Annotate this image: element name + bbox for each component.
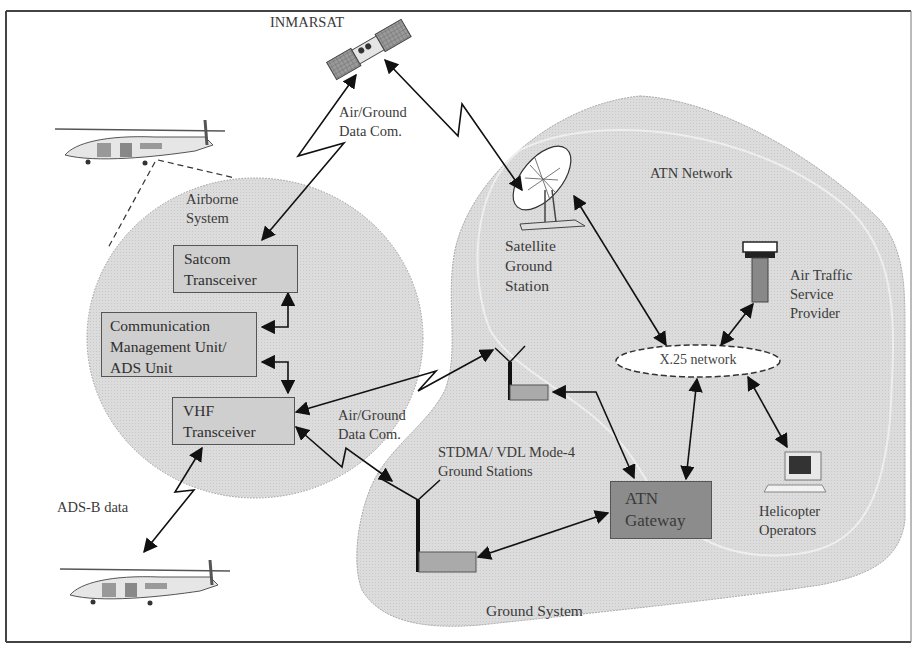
x25-network-label: X.25 network [620, 352, 776, 368]
diagram-canvas: INMARSAT Airborne System ATN Network Gro… [0, 0, 917, 649]
satcom-transceiver-box: Satcom Transceiver [173, 245, 298, 293]
airborne-system-label: Airborne System [186, 190, 238, 228]
ground-system-label: Ground System [486, 601, 583, 620]
satellite-ground-station-label: Satellite Ground Station [505, 236, 556, 296]
vhf-transceiver-box: VHF Transceiver [172, 397, 295, 445]
atn-gateway-box: ATN Gateway [610, 481, 712, 539]
helicopter-icon [55, 120, 225, 166]
helicopter-operators-label: Helicopter Operators [759, 502, 820, 540]
inmarsat-label: INMARSAT [270, 13, 344, 32]
vhf-link-label: Air/Ground Data Com. [338, 406, 406, 444]
atn-network-label: ATN Network [650, 164, 733, 183]
adsb-label: ADS-B data [57, 498, 128, 517]
sat-link-label: Air/Ground Data Com. [339, 103, 407, 141]
helicopter-icon [60, 560, 230, 606]
stdma-ground-stations-label: STDMA/ VDL Mode-4 Ground Stations [438, 443, 575, 481]
cmu-ads-unit-box: Communication Management Unit/ ADS Unit [101, 312, 257, 377]
atsp-label: Air Traffic Service Provider [790, 266, 852, 323]
